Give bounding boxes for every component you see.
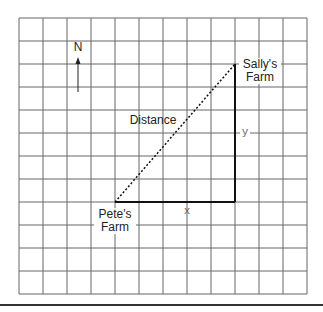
compass-label: N bbox=[72, 41, 84, 54]
y-label: y bbox=[240, 126, 250, 139]
sally-farm-label: Sally's Farm bbox=[239, 58, 281, 84]
distance-label: Distance bbox=[128, 114, 178, 127]
pete-farm-label: Pete's Farm bbox=[94, 208, 136, 234]
x-label: x bbox=[183, 205, 191, 218]
grid-map bbox=[0, 0, 323, 312]
